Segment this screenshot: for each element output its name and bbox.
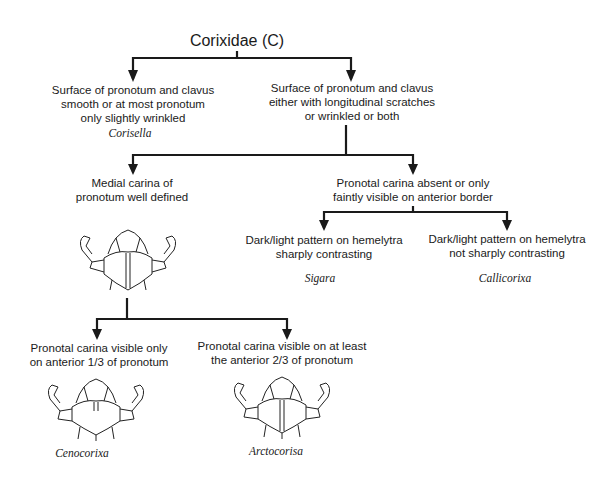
genus-label: Sigara: [305, 272, 336, 284]
couplet-text-line: Dark/light pattern on hemelytra: [245, 233, 402, 247]
couplet-text-line: on anterior 1/3 of pronotum: [30, 355, 169, 369]
couplet-text-line: Dark/light pattern on hemelytra: [428, 232, 585, 246]
couplet-text-line: faintly visible on anterior border: [333, 190, 493, 204]
couplet-text-line: Pronotal carina visible only: [31, 341, 168, 355]
couplet-text-line: the anterior 2/3 of pronotum: [211, 353, 353, 367]
genus-label: Callicorixa: [479, 272, 531, 284]
key-title: Corixidae (C): [190, 32, 284, 50]
couplet-text-line: Surface of pronotum and clavus: [52, 83, 214, 97]
insect-pronotum-full-carina-icon: [68, 222, 188, 292]
genus-label: Corisella: [109, 127, 152, 139]
couplet-text-line: pronotum well defined: [76, 190, 189, 204]
couplet-text-line: Surface of pronotum and clavus: [271, 81, 433, 95]
couplet-text-line: sharply contrasting: [276, 247, 373, 261]
couplet-text-line: or wrinkled or both: [305, 109, 400, 123]
couplet-text-line: only slightly wrinkled: [81, 111, 186, 125]
couplet-text-line: smooth or at most pronotum: [61, 97, 205, 111]
couplet-text-line: Medial carina of: [91, 176, 172, 190]
couplet-text-line: Pronotal carina absent or only: [337, 176, 490, 190]
insect-pronotum-long-carina-icon: [222, 371, 342, 441]
genus-label: Cenocorixa: [55, 447, 109, 459]
insect-pronotum-short-carina-icon: [36, 373, 156, 443]
couplet-text-line: not sharply contrasting: [449, 246, 565, 260]
couplet-text-line: Pronotal carina visible on at least: [198, 339, 367, 353]
couplet-text-line: either with longitudinal scratches: [269, 95, 435, 109]
genus-label: Arctocorisa: [249, 445, 303, 457]
